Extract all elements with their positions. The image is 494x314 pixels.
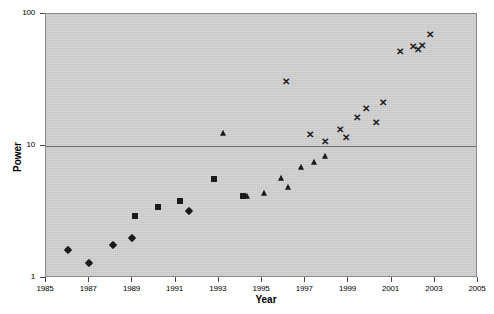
x-tick-label-1991: 1991 (155, 284, 195, 293)
data-point-x: ✕ (281, 77, 290, 86)
x-tick-1991 (175, 277, 176, 282)
y-axis-title: Power (12, 142, 23, 172)
data-point-triangle (285, 184, 291, 190)
x-tick-label-1989: 1989 (111, 284, 151, 293)
x-tick-2005 (477, 277, 478, 282)
x-tick-1985 (45, 277, 46, 282)
data-point-x: ✕ (361, 103, 370, 112)
data-point-x: ✕ (417, 41, 426, 50)
x-tick-1993 (218, 277, 219, 282)
data-point-triangle (311, 158, 317, 164)
x-tick-label-1995: 1995 (241, 284, 281, 293)
data-point-triangle (220, 130, 226, 136)
data-point-x: ✕ (372, 117, 381, 126)
y-tick-label-100: 100 (9, 8, 35, 17)
x-tick-1989 (131, 277, 132, 282)
data-point-x: ✕ (320, 137, 329, 146)
plot-area: ✕✕✕✕✕✕✕✕✕✕✕✕✕✕ (45, 13, 477, 277)
gridline-y-10 (46, 146, 476, 147)
x-tick-label-2001: 2001 (371, 284, 411, 293)
data-point-triangle (322, 153, 328, 159)
x-tick-label-1985: 1985 (25, 284, 65, 293)
data-point-x: ✕ (305, 130, 314, 139)
y-tick-10 (40, 145, 45, 146)
data-point-x: ✕ (378, 98, 387, 107)
data-point-triangle (244, 193, 250, 199)
data-point-diamond (184, 207, 192, 215)
x-axis-title: Year (206, 294, 326, 305)
data-point-square (211, 176, 217, 182)
x-tick-2001 (391, 277, 392, 282)
data-point-x: ✕ (353, 113, 362, 122)
x-tick-label-2005: 2005 (457, 284, 494, 293)
x-tick-label-2003: 2003 (414, 284, 454, 293)
y-tick-1 (40, 277, 45, 278)
x-tick-label-1987: 1987 (68, 284, 108, 293)
data-point-x: ✕ (426, 30, 435, 39)
data-point-diamond (85, 258, 93, 266)
data-point-square (155, 204, 161, 210)
data-point-square (132, 213, 138, 219)
data-point-diamond (109, 241, 117, 249)
y-tick-100 (40, 13, 45, 14)
x-tick-1987 (88, 277, 89, 282)
x-tick-1995 (261, 277, 262, 282)
x-tick-1999 (347, 277, 348, 282)
x-tick-label-1999: 1999 (327, 284, 367, 293)
data-point-triangle (261, 190, 267, 196)
data-point-diamond (63, 246, 71, 254)
x-tick-1997 (304, 277, 305, 282)
x-tick-2003 (434, 277, 435, 282)
chart-root: ✕✕✕✕✕✕✕✕✕✕✕✕✕✕ 1985198719891991199319951… (0, 0, 494, 314)
data-point-diamond (128, 234, 136, 242)
x-tick-label-1993: 1993 (198, 284, 238, 293)
data-point-x: ✕ (342, 132, 351, 141)
data-point-triangle (298, 164, 304, 170)
x-tick-label-1997: 1997 (284, 284, 324, 293)
y-tick-label-1: 1 (9, 272, 35, 281)
data-point-triangle (278, 174, 284, 180)
data-point-square (177, 198, 183, 204)
data-point-x: ✕ (396, 47, 405, 56)
